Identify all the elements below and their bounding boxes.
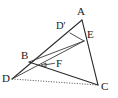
vertex-label-E: E [87,29,94,40]
vertex-label-D-prime: D' [56,21,65,32]
segment-B-to-C [29,62,98,85]
geometry-figure: A B C D D' E F [0,0,118,98]
vertex-label-C: C [101,81,108,92]
vertex-label-A: A [77,6,85,17]
segment-Dprime-to-E [70,33,84,41]
vertex-label-D: D [2,73,10,84]
segment-D-to-C-dotted [12,79,98,85]
vertex-label-B: B [21,50,28,61]
vertex-label-F: F [56,58,62,69]
